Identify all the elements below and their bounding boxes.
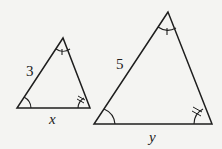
large-bottom-left-angle-arc — [104, 109, 115, 124]
large-bottom-right-tick-2 — [193, 107, 202, 112]
small-base-label: x — [48, 111, 56, 127]
small-bottom-right-tick-1 — [77, 99, 84, 103]
small-side-label: 3 — [26, 63, 34, 79]
similar-triangles-figure: 3 x 5 y — [0, 0, 222, 149]
diagram-canvas: 3 x 5 y — [0, 0, 222, 149]
large-base-label: y — [147, 129, 156, 145]
large-triangle — [94, 12, 212, 124]
small-bottom-left-angle-arc — [24, 97, 31, 108]
large-side-label: 5 — [116, 56, 124, 72]
